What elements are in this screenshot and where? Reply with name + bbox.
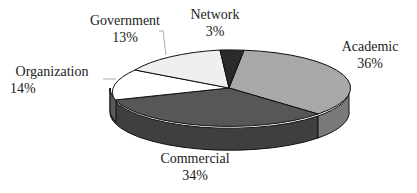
label-organization: Organization 14% (0, 63, 104, 97)
label-academic: Academic 36% (330, 38, 410, 72)
label-commercial: Commercial 34% (140, 150, 250, 184)
label-network: Network 3% (175, 6, 255, 40)
label-government: Government 13% (80, 12, 170, 46)
pie-top (112, 50, 350, 127)
